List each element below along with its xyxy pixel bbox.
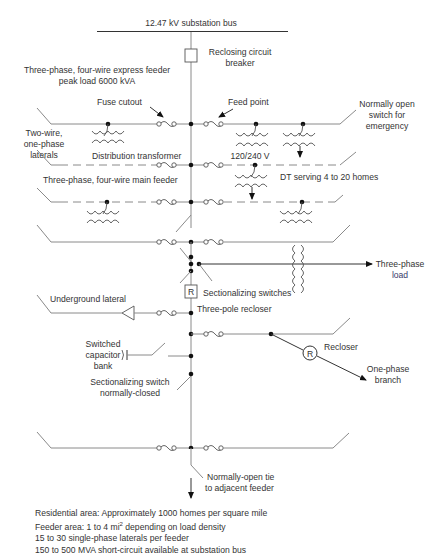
underground-lateral-label: Underground lateral (50, 294, 126, 304)
express-feeder-label-2: peak load 6000 kVA (59, 76, 136, 86)
dt-serving-label: DT serving 4 to 20 homes (280, 172, 378, 182)
lateral-row-4 (37, 225, 157, 242)
note-feeder-area: Feeder area: 1 to 4 mi2 depending on loa… (35, 519, 267, 533)
note-short-circuit: 150 to 500 MVA short-circuit available a… (35, 545, 267, 556)
two-wire-laterals-label-3: laterals (30, 150, 58, 160)
note-laterals-per-feeder: 15 to 30 single-phase laterals per feede… (35, 533, 267, 544)
voltage-label: 120/240 V (230, 151, 269, 161)
sectionalizing-switches-label: Sectionalizing switches (203, 288, 291, 298)
three-phase-transformer-icon (293, 245, 304, 293)
distribution-transformer-label: Distribution transformer (92, 151, 181, 161)
sectionalizing-switch-nc-label-1: Sectionalizing switch (90, 377, 170, 387)
normally-open-switch-label-2: switch for (369, 110, 405, 120)
normally-open-switch-label-1: Normally open (359, 99, 415, 109)
breaker-label-2: breaker (225, 58, 254, 68)
sectionalizing-switch-nc-label-2: normally-closed (100, 388, 160, 398)
normally-open-tie-label-2: to adjacent feeder (205, 483, 274, 493)
one-phase-branch-label-2: branch (375, 375, 401, 385)
lateral-row-1 (37, 108, 157, 124)
normally-open-switch-label-3: emergency (366, 121, 409, 131)
reclosing-circuit-breaker (185, 49, 197, 62)
switched-capacitor-label-1: Switched (86, 339, 121, 349)
note-feeder-area-text: Feeder area: 1 to 4 mi (35, 522, 120, 532)
distribution-feeder-diagram: 12.47 kV substation bus Reclosing circui… (0, 0, 445, 560)
recloser-circle-letter: R (307, 349, 313, 359)
two-wire-laterals-label-1: Two-wire, (26, 128, 63, 138)
two-wire-laterals-label-2: one-phase (24, 139, 65, 149)
pothead-icon (122, 306, 134, 320)
note-feeder-area-tail: depending on load density (123, 522, 226, 532)
notes-block: Residential area: Approximately 1000 hom… (35, 508, 267, 556)
three-phase-load-label-2: load (392, 270, 408, 280)
express-feeder-label-1: Three-phase, four-wire express feeder (24, 65, 170, 75)
switched-capacitor-label-2: capacitor (86, 350, 121, 360)
three-phase-load-label-1: Three-phase (376, 259, 425, 269)
note-residential-area: Residential area: Approximately 1000 hom… (35, 508, 267, 519)
recloser-label: Recloser (324, 342, 358, 352)
normally-open-tie-label-1: Normally-open tie (207, 472, 275, 482)
recloser-box-letter: R (188, 287, 194, 297)
main-feeder-label: Three-phase, four-wire main feeder (43, 175, 178, 185)
lateral-row-bottom (37, 432, 157, 448)
three-pole-recloser-label: Three-pole recloser (197, 304, 272, 314)
switched-capacitor-label-3: bank (94, 361, 113, 371)
substation-bus-label: 12.47 kV substation bus (145, 18, 237, 28)
one-phase-branch-label-1: One-phase (367, 364, 410, 374)
fuse-cutout-label: Fuse cutout (97, 97, 143, 107)
breaker-label-1: Reclosing circuit (209, 47, 272, 57)
feed-point-label: Feed point (228, 97, 269, 107)
capacitor-icon (122, 350, 127, 360)
